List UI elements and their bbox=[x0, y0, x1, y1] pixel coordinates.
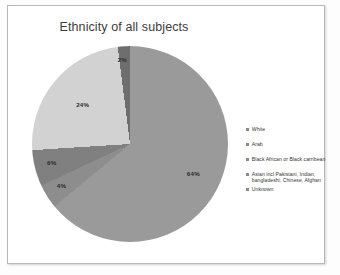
legend-item-asian[interactable]: Asian incl Pakistani, Indian, bangladesh… bbox=[246, 171, 340, 184]
legend-label-unknown: Unknown bbox=[252, 186, 274, 192]
slice-label-asian: 24% bbox=[76, 101, 89, 108]
chart-legend: White Arab Black African or Black carrib… bbox=[246, 126, 340, 200]
pie-graphic bbox=[32, 46, 228, 242]
legend-item-unknown[interactable]: Unknown bbox=[246, 186, 340, 192]
legend-swatch-asian-icon bbox=[246, 173, 249, 176]
legend-item-white[interactable]: White bbox=[246, 126, 340, 132]
legend-swatch-arab-icon bbox=[246, 143, 249, 146]
legend-label-asian: Asian incl Pakistani, Indian, bangladesh… bbox=[252, 171, 340, 184]
legend-swatch-black-african-icon bbox=[246, 158, 249, 161]
slice-label-black-african: 6% bbox=[47, 159, 56, 166]
legend-label-white: White bbox=[252, 126, 265, 132]
legend-swatch-white-icon bbox=[246, 128, 249, 131]
legend-label-black-african: Black African or Black carribean bbox=[252, 156, 326, 162]
page-title: Ethnicity of all subjects bbox=[8, 20, 240, 34]
chart-frame: Ethnicity of all subjects 64% 4% 6% 24% … bbox=[7, 5, 325, 264]
slice-label-arab: 4% bbox=[57, 182, 66, 189]
legend-swatch-unknown-icon bbox=[246, 188, 249, 191]
screenshot-root: Ethnicity of all subjects 64% 4% 6% 24% … bbox=[0, 0, 340, 275]
legend-label-arab: Arab bbox=[252, 141, 263, 147]
legend-item-arab[interactable]: Arab bbox=[246, 141, 340, 147]
slice-label-white: 64% bbox=[187, 170, 200, 177]
legend-item-black-african[interactable]: Black African or Black carribean bbox=[246, 156, 340, 162]
pie-chart: 64% 4% 6% 24% 2% bbox=[32, 46, 228, 242]
slice-label-unknown: 2% bbox=[118, 56, 127, 63]
